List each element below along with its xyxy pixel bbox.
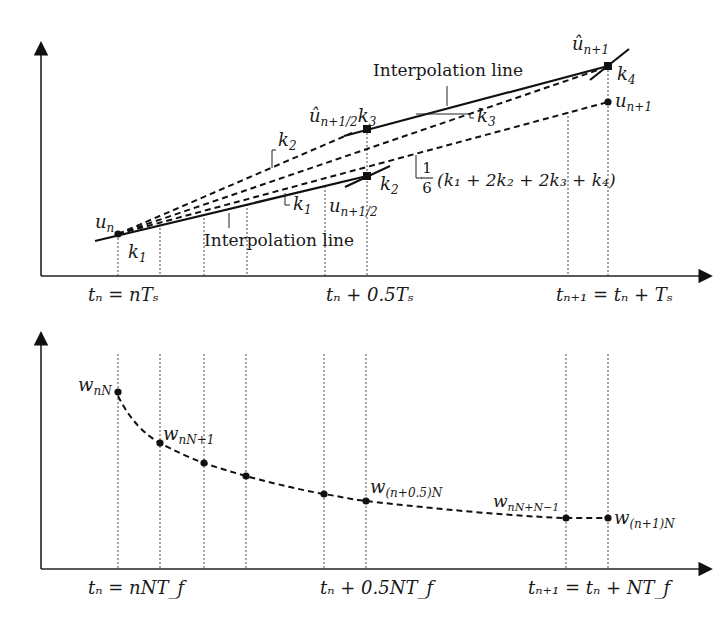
k4-label: k4 — [617, 63, 636, 87]
point-u-n — [114, 230, 121, 237]
weighted-average-label: 1 6 (k₁ + 2k₂ + 2k₃ + k₄) — [421, 159, 616, 197]
rk-interpolation-diagram: Interpolation line Interpolation line un… — [0, 0, 717, 625]
top-panel: Interpolation line Interpolation line un… — [41, 33, 710, 305]
point-u-hat-next — [604, 62, 612, 70]
u-n-label: un — [95, 211, 114, 235]
svg-text:6: 6 — [422, 179, 432, 197]
top-tick-t-half: tₙ + 0.5Tₛ — [326, 284, 414, 305]
k2-slope-line — [118, 133, 352, 234]
k1-label-b: k1 — [293, 193, 312, 217]
bottom-gridlines — [118, 354, 608, 569]
u-next-label: un+1 — [615, 90, 652, 114]
point-u-next — [604, 98, 611, 105]
weighted-leader — [416, 155, 422, 178]
svg-text:(k₁ + 2k₂ + 2k₃ + k₄): (k₁ + 2k₂ + 2k₃ + k₄) — [437, 170, 616, 190]
w-next-label: w(n+1)N — [614, 507, 675, 531]
bottom-tick-t0: tₙ = nNT_f — [88, 577, 187, 599]
w-last-label: wnN+N−1 — [493, 491, 559, 514]
interp-line-upper-label: Interpolation line — [373, 60, 523, 80]
w-half-label: w(n+0.5)N — [370, 476, 443, 500]
w-nN1-label: wnN+1 — [163, 423, 214, 447]
k1-label-a: k1 — [128, 241, 147, 265]
w-nN-label: wnN — [78, 374, 112, 398]
k2-label-b: k2 — [380, 173, 399, 197]
u-half-label: un+1/2 — [329, 195, 378, 219]
bottom-panel: wnN wnN+1 w(n+0.5)N wnN+N−1 w(n+1)N tₙ =… — [41, 334, 710, 599]
interp-line-lower-label: Interpolation line — [204, 230, 354, 250]
top-tick-t1: tₙ₊₁ = tₙ + Tₛ — [556, 284, 673, 305]
svg-text:1: 1 — [422, 159, 432, 177]
bottom-tick-t-half: tₙ + 0.5NT_f — [320, 577, 436, 599]
top-tick-t0: tₙ = nTₛ — [88, 284, 159, 305]
point-u-half — [363, 172, 371, 180]
k2-label-a: k2 — [278, 129, 297, 153]
u-hat-next-label: ûn+1 — [572, 33, 609, 57]
bottom-tick-t1: tₙ₊₁ = tₙ + NT_f — [528, 577, 674, 599]
k3-label-b: k3 — [477, 105, 496, 129]
u-hat-half-label: ûn+1/2k3 — [309, 105, 377, 129]
